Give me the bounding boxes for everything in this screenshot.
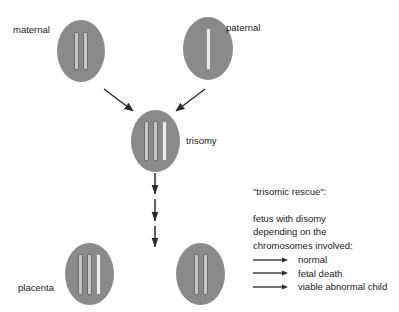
chromosome-maternal bbox=[78, 254, 83, 295]
chromosome-group-maternal bbox=[57, 20, 105, 82]
cell-placenta bbox=[65, 243, 114, 305]
arrow-maternal-to-trisomy bbox=[104, 89, 133, 111]
label-maternal: maternal bbox=[13, 24, 50, 35]
chromosome-paternal bbox=[206, 28, 211, 70]
outcome-list: normal fetal death viable abnormal child bbox=[253, 253, 399, 294]
info-panel: "trisomic rescue": fetus with disomy dep… bbox=[253, 185, 399, 294]
outcome-item-fetal-death: fetal death bbox=[253, 267, 399, 281]
diagram-canvas: maternal paternal trisomy placenta "tris bbox=[0, 0, 399, 312]
chromosome-maternal bbox=[153, 121, 158, 161]
outcome-label: normal bbox=[298, 253, 327, 267]
outcome-label: viable abnormal child bbox=[298, 280, 387, 294]
chromosome-maternal bbox=[74, 32, 79, 70]
arrow-paternal-to-trisomy bbox=[176, 89, 205, 111]
outcome-arrow-icon bbox=[253, 283, 289, 291]
chromosome-maternal bbox=[194, 254, 199, 295]
cell-fetus bbox=[176, 243, 225, 305]
cell-trisomy bbox=[131, 110, 180, 172]
label-trisomy: trisomy bbox=[186, 135, 217, 146]
chromosome-maternal bbox=[144, 121, 149, 161]
chromosome-maternal bbox=[83, 32, 88, 70]
chromosome-group-trisomy bbox=[131, 110, 180, 172]
chromosome-maternal bbox=[87, 254, 92, 295]
chromosome-paternal bbox=[162, 121, 167, 161]
outcome-arrow-icon bbox=[253, 256, 289, 264]
info-heading: "trisomic rescue": bbox=[253, 185, 399, 199]
outcome-item-viable-abnormal-child: viable abnormal child bbox=[253, 280, 399, 294]
chromosome-group-placenta bbox=[65, 243, 114, 305]
chromosome-group-fetus bbox=[176, 243, 225, 305]
chromosome-maternal bbox=[203, 254, 208, 295]
cell-maternal bbox=[57, 20, 105, 82]
info-body-line: chromosomes involved: bbox=[253, 239, 399, 253]
outcome-label: fetal death bbox=[298, 267, 342, 281]
info-body-line: depending on the bbox=[253, 225, 399, 239]
outcome-item-normal: normal bbox=[253, 253, 399, 267]
info-body-line: fetus with disomy bbox=[253, 212, 399, 226]
label-placenta: placenta bbox=[18, 282, 54, 293]
label-paternal: paternal bbox=[226, 22, 260, 33]
chromosome-paternal bbox=[96, 254, 101, 295]
outcome-arrow-icon bbox=[253, 269, 289, 277]
